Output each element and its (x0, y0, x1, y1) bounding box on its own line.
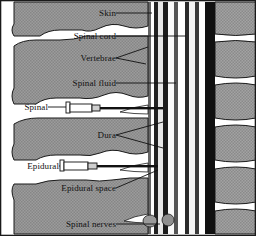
label-vertebrae: Vertebrae (81, 53, 116, 63)
dura-mater (163, 2, 168, 234)
label-spinal: Spinal (24, 102, 48, 112)
label-spinal-cord: Spinal cord (74, 31, 116, 41)
figure-canvas: Skin Spinal cord Vertebrae Spinal fluid … (0, 0, 256, 236)
label-dura: Dura (98, 130, 116, 140)
label-skin: Skin (99, 8, 116, 18)
label-spinal-nerves: Spinal nerves (66, 219, 116, 229)
subarachnoid-space (168, 2, 174, 234)
spinal-canal-layers (148, 2, 215, 234)
epidural-space-band (158, 2, 163, 234)
label-spinal-fluid: Spinal fluid (73, 78, 116, 88)
label-epidural-space: Epidural space (61, 183, 116, 193)
label-epidural: Epidural (27, 161, 59, 171)
anatomy-illustration (0, 0, 256, 236)
spinal-cord-body (178, 2, 185, 234)
